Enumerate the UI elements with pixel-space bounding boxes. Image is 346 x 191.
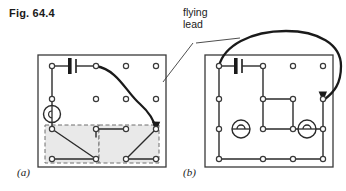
terminal-hole [216,156,221,161]
panel-b-group [205,31,341,167]
terminal-hole [320,156,325,161]
diagram-svg [0,0,346,191]
terminal-hole [260,156,265,161]
figure-container: Fig. 64.4 flying lead (a) (b) [0,0,346,191]
battery-plate-thick-b [234,58,238,74]
terminal-hole [153,63,158,68]
terminal-hole [320,126,325,131]
lamp-symbol-a [44,106,61,123]
terminal-hole [123,156,128,161]
dashed-lamp-region-right-a [99,125,159,163]
battery-plate-thick-a [68,58,72,74]
terminal-hole [153,156,158,161]
terminal-hole [49,126,54,131]
terminal-hole [153,126,158,131]
terminal-hole [216,126,221,131]
terminal-hole [93,156,98,161]
terminal-hole [216,96,221,101]
board-outline-b [205,55,333,167]
terminal-hole [320,96,325,101]
terminal-hole [93,96,98,101]
terminal-hole [123,96,128,101]
lamp-symbol-right-b [298,120,316,138]
terminal-hole [260,63,265,68]
panel-a-group [38,55,166,167]
terminal-hole [260,96,265,101]
terminal-hole [153,96,158,101]
leader-line-to-panel-b [196,38,240,43]
terminal-hole [49,96,54,101]
terminal-hole [290,156,295,161]
terminal-hole [93,63,98,68]
leader-line-to-panel-a [163,43,193,82]
terminal-hole [123,63,128,68]
terminal-hole [290,63,295,68]
terminal-hole [49,63,54,68]
terminal-hole [216,63,221,68]
terminal-hole [290,96,295,101]
terminal-hole [290,126,295,131]
terminal-hole [320,63,325,68]
lamp-symbol-left-b [232,120,250,138]
terminal-hole [93,126,98,131]
terminal-hole [49,156,54,161]
terminal-hole [123,126,128,131]
terminal-hole [260,126,265,131]
